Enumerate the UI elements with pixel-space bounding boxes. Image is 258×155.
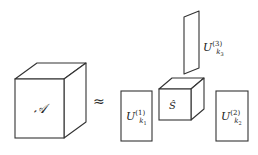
factor-1-label: U(1)k1 <box>126 107 153 123</box>
factor-3-superscript: (3) <box>212 40 222 48</box>
input-tensor-label: 𝒜 <box>34 101 46 117</box>
factor-3-subscript-index: 3 <box>220 51 223 57</box>
factor-1-subscript-index: 1 <box>143 120 146 126</box>
figure-canvas: 𝒜 ≈ U(1)k1 Ŝ U(3)k3 U(2)k2 <box>0 0 258 155</box>
core-tensor-cube <box>159 78 204 120</box>
factor-1-superscript: (1) <box>135 109 145 117</box>
input-tensor-cube <box>15 63 86 138</box>
factor-2-subscript-index: 2 <box>238 120 241 126</box>
core-tensor-label: Ŝ <box>169 100 176 111</box>
factor-2-base: U <box>221 110 230 123</box>
factor-3-label: U(3)k3 <box>203 38 230 54</box>
tucker-decomposition-diagram <box>0 0 258 155</box>
factor-2-superscript: (2) <box>230 109 240 117</box>
factor-3-slab <box>184 11 199 74</box>
approximation-symbol: ≈ <box>93 93 105 109</box>
factor-2-label: U(2)k2 <box>221 107 248 123</box>
factor-1-base: U <box>126 110 135 123</box>
factor-3-base: U <box>203 41 212 54</box>
